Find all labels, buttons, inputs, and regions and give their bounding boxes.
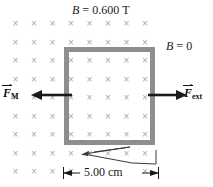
field-into-page-x-icon: × xyxy=(11,38,20,47)
b-zero-equals: = xyxy=(173,39,186,53)
b-field-value: 0.600 xyxy=(92,3,119,17)
physics-diagram-figure: ××××××××××××××××××××××××××××××××××××××××… xyxy=(0,0,213,187)
b-field-unit: T xyxy=(122,3,129,17)
field-into-page-x-icon: × xyxy=(141,19,150,28)
width-dimension-label: 5.00 cm xyxy=(84,165,123,180)
field-into-page-x-icon: × xyxy=(48,130,57,139)
dimension-unit: cm xyxy=(108,165,123,179)
field-into-page-x-icon: × xyxy=(11,56,20,65)
loop-leader-line xyxy=(72,144,158,166)
field-into-page-x-icon: × xyxy=(141,38,150,47)
field-into-page-x-icon: × xyxy=(85,38,94,47)
field-into-page-x-icon: × xyxy=(48,75,57,84)
field-into-page-x-icon: × xyxy=(11,112,20,121)
field-into-page-x-icon: × xyxy=(104,38,113,47)
field-into-page-x-icon: × xyxy=(48,149,57,158)
field-into-page-x-icon: × xyxy=(48,167,57,176)
field-into-page-x-icon: × xyxy=(30,130,39,139)
field-into-page-x-icon: × xyxy=(30,56,39,65)
b-zero-value: 0 xyxy=(186,39,192,53)
zero-field-label: B = 0 xyxy=(166,39,192,54)
field-into-page-x-icon: × xyxy=(67,38,76,47)
dimension-value: 5.00 xyxy=(84,165,105,179)
field-into-page-x-icon: × xyxy=(48,38,57,47)
field-into-page-x-icon: × xyxy=(104,19,113,28)
force-magnetic-arrow xyxy=(30,88,74,102)
b-field-equals: = xyxy=(79,3,92,17)
field-into-page-x-icon: × xyxy=(11,130,20,139)
force-external-arrow xyxy=(148,88,188,102)
field-into-page-x-icon: × xyxy=(11,167,20,176)
field-into-page-x-icon: × xyxy=(67,19,76,28)
field-into-page-x-icon: × xyxy=(85,19,94,28)
field-into-page-x-icon: × xyxy=(30,112,39,121)
field-into-page-x-icon: × xyxy=(30,75,39,84)
field-into-page-x-icon: × xyxy=(30,149,39,158)
vector-arrow-icon xyxy=(183,82,194,87)
field-into-page-x-icon: × xyxy=(11,149,20,158)
magnetic-field-strength-label: B = 0.600 T xyxy=(72,3,129,18)
force-magnetic-letter: F xyxy=(3,86,11,100)
force-magnetic-label: FM xyxy=(3,86,19,101)
field-into-page-x-icon: × xyxy=(30,38,39,47)
field-into-page-x-icon: × xyxy=(48,112,57,121)
conducting-loop xyxy=(64,47,155,145)
field-into-page-x-icon: × xyxy=(48,19,57,28)
field-into-page-x-icon: × xyxy=(11,19,20,28)
field-into-page-x-icon: × xyxy=(30,167,39,176)
field-into-page-x-icon: × xyxy=(30,19,39,28)
vector-arrow-icon xyxy=(2,82,13,87)
force-magnetic-subscript: M xyxy=(11,92,19,101)
force-external-subscript: ext xyxy=(192,92,202,101)
field-into-page-x-icon: × xyxy=(122,19,131,28)
field-into-page-x-icon: × xyxy=(48,56,57,65)
force-magnetic-symbol: F xyxy=(3,86,11,101)
field-into-page-x-icon: × xyxy=(122,38,131,47)
